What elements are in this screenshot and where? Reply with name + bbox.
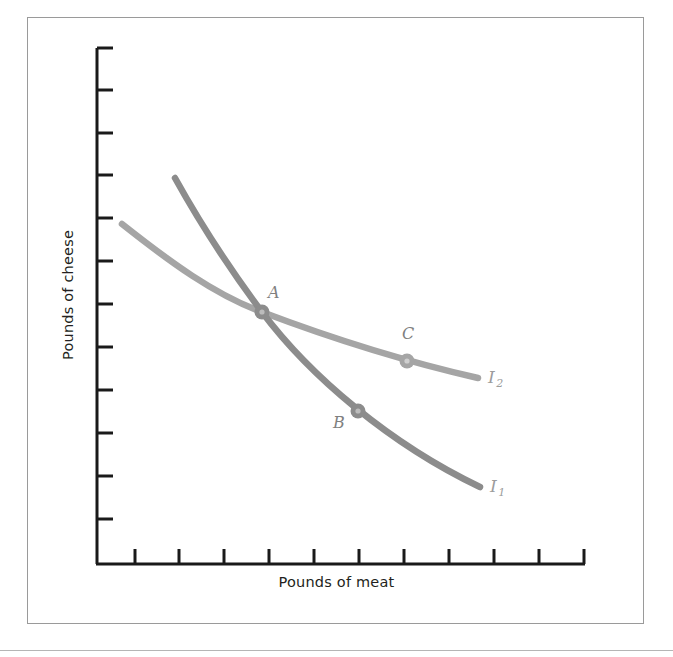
point-label-c: C [402, 324, 414, 343]
y-axis-ticks [97, 48, 113, 519]
data-point-a-inner [259, 309, 264, 314]
point-label-a: A [268, 283, 280, 302]
curve-label-i1: I1 [490, 476, 505, 499]
curve-label-i1-text: I [490, 476, 497, 496]
data-point-c-inner [404, 358, 409, 363]
axis-lines [96, 48, 585, 564]
figure-page: Pounds of meat Pounds of cheese A B C I2… [0, 0, 673, 657]
x-axis-ticks [135, 549, 584, 564]
curve-label-i1-subscript: 1 [497, 486, 506, 499]
y-axis-label: Pounds of cheese [60, 240, 76, 360]
indifference-curve-plot [0, 0, 673, 657]
curve-label-i2-text: I [488, 367, 495, 387]
curve-label-i2-subscript: 2 [495, 377, 504, 390]
point-label-b: B [333, 413, 345, 432]
x-axis-label: Pounds of meat [0, 574, 673, 590]
data-point-b-inner [355, 408, 360, 413]
curve-label-i2: I2 [488, 367, 503, 390]
